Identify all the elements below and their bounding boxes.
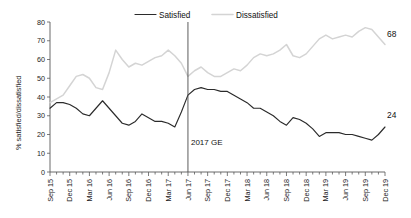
y-tick-label: 40 bbox=[37, 93, 45, 102]
annotation-layer: 2017 GE bbox=[188, 22, 223, 172]
x-tick-label: Sep 18 bbox=[282, 179, 291, 202]
endpoint-label-dissatisfied: 68 bbox=[387, 29, 397, 39]
x-tick-label: Dec 17 bbox=[223, 179, 232, 202]
chart-canvas: Satisfied Dissatisfied % satisfied/dissa… bbox=[0, 0, 411, 218]
x-tick-label: Dec 16 bbox=[144, 179, 153, 202]
x-tick-label: Jun 17 bbox=[184, 179, 193, 201]
y-tick-label: 20 bbox=[37, 130, 45, 139]
annotation-label-2017-ge: 2017 GE bbox=[191, 138, 223, 147]
endpoint-label-layer: 2468 bbox=[387, 29, 397, 121]
x-tick-label: Dec 18 bbox=[302, 179, 311, 202]
x-tick-label: Mar 17 bbox=[164, 179, 173, 201]
y-tick-label: 30 bbox=[37, 111, 45, 120]
x-tick-label: Sep 15 bbox=[46, 179, 55, 202]
x-tick-label: Sep 16 bbox=[124, 179, 133, 202]
x-tick-label: Jun 16 bbox=[105, 179, 114, 201]
x-tick-label: Mar 18 bbox=[243, 179, 252, 201]
x-tick-label: Mar 19 bbox=[321, 179, 330, 201]
y-tick-label: 0 bbox=[41, 168, 45, 177]
y-tick-label: 70 bbox=[37, 36, 45, 45]
x-tick-label: Dec 15 bbox=[65, 179, 74, 202]
y-tick-label: 10 bbox=[37, 149, 45, 158]
line-chart: Satisfied Dissatisfied % satisfied/dissa… bbox=[0, 0, 411, 218]
y-tick-label: 50 bbox=[37, 74, 45, 83]
chart-legend: Satisfied Dissatisfied bbox=[135, 11, 278, 20]
x-tick-label: Sep 19 bbox=[361, 179, 370, 202]
y-tick-label: 80 bbox=[37, 18, 45, 27]
x-axis: Sep 15Dec 15Mar 16Jun 16Sep 16Dec 16Mar … bbox=[46, 172, 390, 202]
x-tick-label: Mar 16 bbox=[85, 179, 94, 201]
endpoint-label-satisfied: 24 bbox=[387, 110, 397, 120]
legend-label-dissatisfied: Dissatisfied bbox=[236, 11, 278, 20]
x-tick-label: Dec 19 bbox=[381, 179, 390, 202]
series-line-satisfied bbox=[50, 88, 385, 141]
series-line-dissatisfied bbox=[50, 28, 385, 103]
y-tick-label: 60 bbox=[37, 55, 45, 64]
x-tick-label: Sep 17 bbox=[203, 179, 212, 202]
legend-label-satisfied: Satisfied bbox=[159, 11, 191, 20]
x-tick-label: Jun 19 bbox=[341, 179, 350, 201]
series-layer bbox=[50, 28, 385, 141]
x-tick-label: Jun 18 bbox=[262, 179, 271, 201]
y-axis: 01020304050607080 bbox=[37, 18, 50, 177]
y-axis-title: % satisfied/dissatisfied bbox=[14, 76, 23, 150]
